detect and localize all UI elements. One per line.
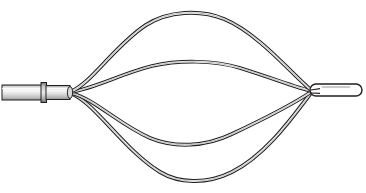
distal-sheath-segment <box>46 86 70 100</box>
proximal-shaft <box>2 85 42 100</box>
device-illustration-figure: Endoscopic stone retrieval basket cathet… <box>0 0 366 193</box>
wire-upper-inner <box>71 62 311 92</box>
device-illustration-svg <box>0 0 366 193</box>
wire-convergence-hub <box>67 87 72 99</box>
distal-atraumatic-tip <box>310 84 362 96</box>
wire-lower-outer <box>72 93 312 181</box>
basket-wire-cage <box>71 13 311 181</box>
